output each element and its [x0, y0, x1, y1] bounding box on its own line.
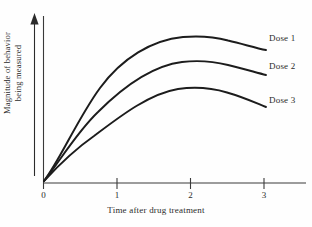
- x-tick-label-2: 2: [184, 190, 198, 200]
- curve-dose-2: [44, 61, 266, 181]
- y-axis-label-line-1: Magnitude of behavior: [2, 8, 13, 138]
- up-arrow-icon: [30, 13, 38, 25]
- x-axis-label: Time after drug treatment: [0, 205, 312, 215]
- series-label-dose-1: Dose 1: [269, 33, 295, 43]
- x-tick-label-1: 1: [110, 190, 124, 200]
- x-tick-label-3: 3: [257, 190, 271, 200]
- curve-dose-1: [44, 36, 266, 181]
- drug-response-chart: 0 1 2 3 Dose 1 Dose 2 Dose 3 Time after …: [0, 0, 312, 227]
- series-label-dose-3: Dose 3: [269, 95, 295, 105]
- x-tick-label-0: 0: [37, 190, 51, 200]
- y-axis-label: Magnitude of behavior being measured: [2, 8, 24, 138]
- y-axis-label-line-2: being measured: [13, 8, 24, 138]
- series-label-dose-2: Dose 2: [269, 61, 295, 71]
